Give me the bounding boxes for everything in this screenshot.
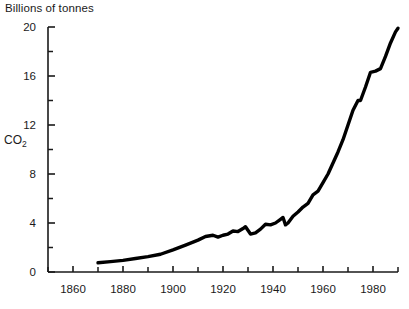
data-series-line bbox=[98, 28, 398, 263]
plot-area: 048121620 1860188019001920194019601980 bbox=[0, 0, 409, 309]
x-tick-label: 1940 bbox=[260, 283, 286, 295]
y-axis-tick-labels: 048121620 bbox=[23, 21, 36, 278]
x-axis-ticks bbox=[48, 266, 398, 272]
x-tick-label: 1900 bbox=[160, 283, 186, 295]
y-tick-label: 0 bbox=[30, 266, 36, 278]
y-tick-label: 4 bbox=[30, 217, 37, 229]
y-tick-label: 12 bbox=[23, 119, 36, 131]
co2-emissions-chart: Billions of tonnes CO2 048121620 1860188… bbox=[0, 0, 409, 309]
y-tick-label: 20 bbox=[23, 21, 36, 33]
x-tick-label: 1980 bbox=[360, 283, 386, 295]
x-tick-label: 1860 bbox=[60, 283, 86, 295]
x-axis-tick-labels: 1860188019001920194019601980 bbox=[60, 283, 386, 295]
x-tick-label: 1880 bbox=[110, 283, 136, 295]
y-tick-label: 8 bbox=[30, 168, 36, 180]
y-tick-label: 16 bbox=[23, 70, 36, 82]
y-axis-ticks bbox=[48, 27, 55, 272]
x-tick-label: 1960 bbox=[310, 283, 336, 295]
x-tick-label: 1920 bbox=[210, 283, 236, 295]
